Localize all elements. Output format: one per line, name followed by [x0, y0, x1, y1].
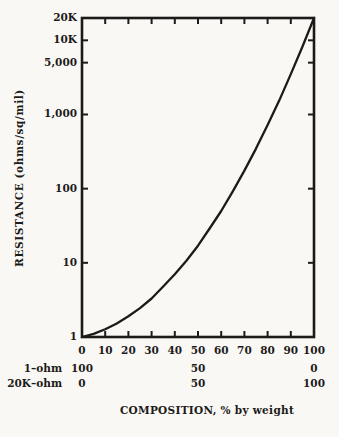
- y-tick-label: 20K: [25, 11, 77, 24]
- composition-row-value: 100: [66, 362, 98, 375]
- y-tick-label: 10K: [25, 33, 77, 46]
- y-tick-label: 100: [25, 182, 77, 195]
- resistance-curve: [82, 18, 314, 337]
- x-axis-title: COMPOSITION, % by weight: [107, 404, 307, 417]
- y-tick-label: 1,000: [25, 107, 77, 120]
- row-label-20k-ohm: 20K–ohm: [0, 377, 62, 390]
- x-tick-label: 100: [300, 344, 328, 357]
- plot-border: [82, 18, 314, 337]
- composition-row-value: 50: [182, 362, 214, 375]
- composition-row-value: 0: [66, 377, 98, 390]
- y-tick-label: 10: [25, 256, 77, 269]
- composition-row-value: 0: [298, 362, 330, 375]
- composition-row-value: 50: [182, 377, 214, 390]
- row-label-1-ohm: 1–ohm: [0, 362, 62, 375]
- y-tick-label: 5,000: [25, 56, 77, 69]
- resistance-composition-chart: RESISTANCE (ohms/sq/mil) COMPOSITION, % …: [0, 0, 339, 437]
- y-axis-title: RESISTANCE (ohms/sq/mil): [13, 89, 26, 267]
- y-tick-label: 1: [25, 330, 77, 343]
- composition-row-value: 100: [298, 377, 330, 390]
